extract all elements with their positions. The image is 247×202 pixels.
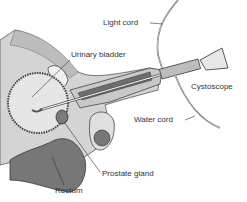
label-rectum: Rectum [55,187,83,195]
label-urinary-bladder: Urinary bladder [71,51,126,59]
urinary-bladder-shape [8,73,68,133]
leader-light-cord [150,23,163,24]
label-cystoscope: Cystoscope [191,83,233,91]
cystoscope-body [159,59,200,79]
leader-water-cord [185,116,195,120]
light-cord [157,0,178,68]
eyepiece [200,48,228,70]
label-water-cord: Water cord [134,116,173,124]
prostate-shape [56,110,68,124]
cystoscopy-diagram: Light cord Urinary bladder Cystoscope Wa… [0,0,247,202]
label-prostate-gland: Prostate gland [102,170,154,178]
testis [94,130,110,146]
label-light-cord: Light cord [103,19,138,27]
